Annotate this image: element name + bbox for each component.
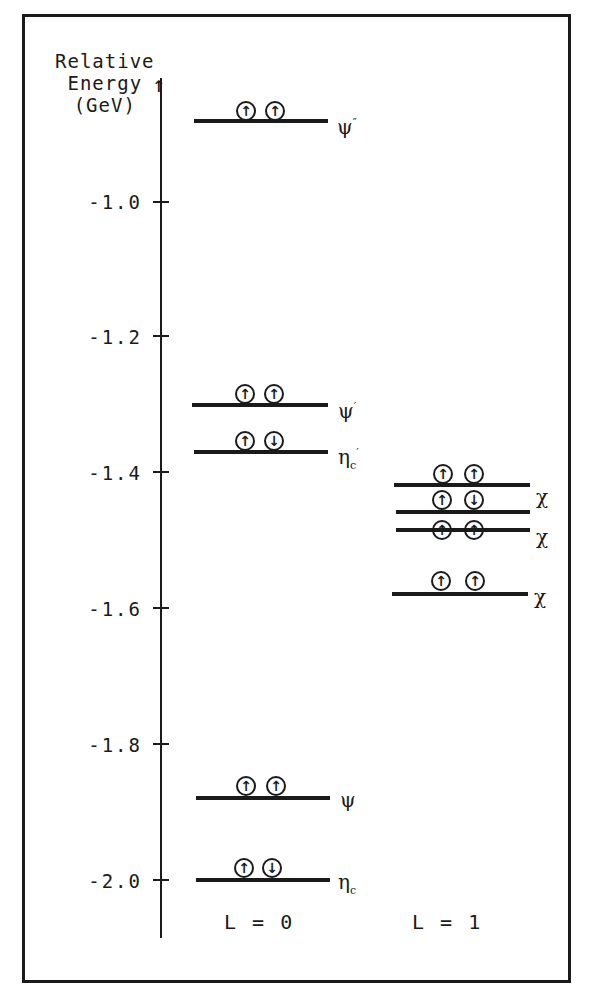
tick-label: -1.8 — [72, 735, 142, 755]
spin-down-icon: ↓ — [262, 858, 282, 878]
spin-up-icon: ↑ — [464, 520, 484, 540]
label-chi: χ — [536, 527, 548, 547]
spin-down-icon: ↓ — [464, 490, 484, 510]
label-chi: χ — [536, 487, 548, 507]
label-psi-prime: ψ′ — [338, 397, 356, 421]
spin-up-icon: ↑ — [264, 384, 284, 404]
spin-up-icon: ↑ — [235, 384, 255, 404]
y-label-line3: (GeV) — [55, 94, 155, 116]
spin-up-icon: ↑ — [432, 520, 452, 540]
spin-up-icon: ↑ — [465, 571, 485, 591]
diagram-frame — [22, 14, 571, 983]
label-etac-prime: ηc′ — [338, 443, 359, 476]
arrow-up-icon: ↑ — [152, 74, 165, 96]
spin-down-icon: ↓ — [264, 431, 284, 451]
level-chi-2 — [394, 483, 530, 487]
tick-label: -1.4 — [72, 463, 142, 483]
spin-up-icon: ↑ — [266, 776, 286, 796]
spin-up-icon: ↑ — [433, 464, 453, 484]
tick — [153, 471, 169, 473]
tick-label: -1.6 — [72, 599, 142, 619]
spin-up-icon: ↑ — [235, 431, 255, 451]
spin-up-icon: ↑ — [431, 571, 451, 591]
label-psi-double-prime: ψ″ — [337, 113, 357, 137]
tick — [153, 201, 169, 203]
spin-up-icon: ↑ — [464, 464, 484, 484]
level-psi-prime — [192, 403, 328, 407]
level-chi-0 — [392, 592, 528, 596]
level-etac — [196, 878, 330, 882]
tick-label: -1.0 — [72, 192, 142, 212]
y-label-line2: Energy — [55, 72, 155, 94]
tick — [153, 335, 169, 337]
y-axis — [160, 78, 162, 938]
y-axis-label: Relative Energy (GeV) — [55, 50, 155, 116]
spin-up-icon: ↑ — [236, 776, 256, 796]
tick — [153, 879, 169, 881]
level-psi-double-prime — [194, 119, 328, 123]
tick-label: -1.2 — [72, 327, 142, 347]
label-etac: ηc — [338, 872, 356, 901]
label-psi: ψ — [340, 790, 356, 810]
spin-up-icon: ↑ — [236, 101, 256, 121]
level-h-c — [396, 510, 530, 514]
tick — [153, 743, 169, 745]
spin-up-icon: ↑ — [265, 101, 285, 121]
tick-label: -2.0 — [72, 871, 142, 891]
spin-up-icon: ↑ — [432, 490, 452, 510]
level-psi — [196, 796, 330, 800]
tick — [153, 607, 169, 609]
column-label-l1: L = 1 — [412, 910, 482, 934]
level-chi-1 — [396, 528, 530, 532]
level-etac-prime — [194, 450, 328, 454]
spin-up-icon: ↑ — [234, 858, 254, 878]
column-label-l0: L = 0 — [224, 910, 294, 934]
label-chi: χ — [534, 587, 546, 607]
y-label-line1: Relative — [55, 50, 155, 72]
